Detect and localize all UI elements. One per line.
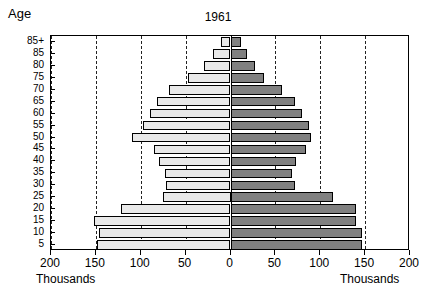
y-tick-label-85: 85: [0, 48, 44, 58]
bar-male-5: [97, 240, 231, 249]
y-tick: [50, 220, 55, 221]
bar-male-10: [99, 228, 230, 238]
y-tick-label-25: 25: [0, 191, 44, 201]
y-tick: [50, 172, 55, 173]
y-tick-label-40: 40: [0, 155, 44, 165]
bar-female-40: [231, 157, 297, 167]
y-tick: [50, 125, 55, 126]
bar-male-85: [213, 49, 231, 59]
bar-female-50: [231, 133, 312, 143]
y-tick: [50, 113, 55, 114]
y-tick: [50, 77, 55, 78]
bar-female-10: [231, 228, 363, 238]
x-tick-label-8: 200: [379, 256, 436, 270]
plot-area: [50, 35, 409, 250]
bar-male-85+: [221, 37, 231, 47]
y-tick: [50, 148, 55, 149]
bar-male-80: [204, 61, 231, 71]
bar-male-75: [188, 73, 230, 83]
x-tick: [274, 250, 275, 255]
bar-male-40: [159, 157, 231, 167]
plot-inner: [51, 36, 408, 249]
bar-female-5: [231, 240, 363, 249]
bar-female-85: [231, 49, 247, 59]
y-tick-label-80: 80: [0, 60, 44, 70]
bar-female-20: [231, 204, 357, 214]
y-tick-label-45: 45: [0, 143, 44, 153]
x-tick: [230, 250, 231, 255]
y-tick: [50, 232, 55, 233]
y-tick: [50, 137, 55, 138]
y-tick: [50, 184, 55, 185]
bar-male-55: [143, 121, 231, 131]
y-tick-label-50: 50: [0, 132, 44, 142]
y-tick: [50, 53, 55, 54]
bar-male-50: [132, 133, 231, 143]
y-tick: [50, 160, 55, 161]
bar-male-60: [150, 109, 231, 119]
y-tick-label-20: 20: [0, 203, 44, 213]
bar-female-60: [231, 109, 303, 119]
y-tick-label-75: 75: [0, 72, 44, 82]
x-tick: [95, 250, 96, 255]
y-tick-label-65: 65: [0, 96, 44, 106]
x-tick: [409, 250, 410, 255]
bar-male-70: [169, 85, 230, 95]
bar-female-25: [231, 192, 333, 202]
y-tick-label-30: 30: [0, 179, 44, 189]
bar-male-15: [94, 216, 230, 226]
y-tick: [50, 208, 55, 209]
bar-female-65: [231, 97, 296, 107]
x-tick: [364, 250, 365, 255]
y-tick: [50, 65, 55, 66]
bar-female-55: [231, 121, 310, 131]
y-tick: [50, 41, 55, 42]
x-tick: [319, 250, 320, 255]
x-tick: [140, 250, 141, 255]
bar-male-25: [163, 192, 230, 202]
x-axis-unit-left: Thousands: [36, 272, 95, 286]
y-tick-label-5: 5: [0, 239, 44, 249]
gridline: [365, 36, 366, 249]
y-tick-label-60: 60: [0, 108, 44, 118]
y-tick: [50, 244, 55, 245]
bar-female-15: [231, 216, 357, 226]
x-axis-unit-right: Thousands: [340, 272, 399, 286]
bar-female-30: [231, 181, 296, 191]
y-tick-label-70: 70: [0, 84, 44, 94]
bar-female-70: [231, 85, 282, 95]
bar-male-20: [121, 204, 230, 214]
y-tick: [50, 196, 55, 197]
gridline: [51, 36, 52, 249]
y-tick: [50, 89, 55, 90]
bar-female-75: [231, 73, 264, 83]
bar-female-45: [231, 145, 306, 155]
y-tick-label-10: 10: [0, 227, 44, 237]
population-pyramid-chart: Age 1961 5101520253035404550556065707580…: [0, 0, 436, 296]
y-tick-label-15: 15: [0, 215, 44, 225]
bar-male-30: [166, 181, 231, 191]
bar-male-65: [157, 97, 231, 107]
x-tick: [185, 250, 186, 255]
y-tick-label-55: 55: [0, 120, 44, 130]
y-tick: [50, 101, 55, 102]
bar-male-35: [165, 169, 231, 179]
bar-female-80: [231, 61, 255, 71]
bar-female-85+: [231, 37, 242, 47]
bar-female-35: [231, 169, 292, 179]
bar-male-45: [154, 145, 230, 155]
x-tick: [50, 250, 51, 255]
y-tick-label-35: 35: [0, 167, 44, 177]
chart-title: 1961: [0, 10, 436, 24]
y-tick-label-85+: 85+: [0, 36, 44, 46]
